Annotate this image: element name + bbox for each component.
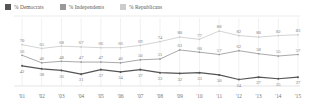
legend-item-democrats: % Democrats	[5, 4, 44, 10]
data-point-republicans	[100, 47, 102, 49]
data-point-republicans	[120, 47, 122, 49]
value-label-democrats: 32	[177, 77, 182, 82]
data-point-republicans	[41, 48, 43, 50]
x-tick-label: '06	[118, 93, 125, 99]
x-tick-label: '11	[216, 93, 222, 99]
data-point-democrats	[159, 72, 161, 74]
data-point-republicans	[61, 45, 63, 47]
data-point-independents	[61, 60, 63, 62]
value-label-republicans: 82	[237, 29, 242, 34]
legend-label-independents: % Independents	[69, 4, 104, 10]
data-point-democrats	[198, 72, 200, 74]
value-label-independents: 46	[39, 56, 44, 61]
data-point-democrats	[238, 78, 240, 80]
data-point-democrats	[258, 76, 260, 78]
value-label-democrats: 33	[197, 76, 202, 81]
x-tick-label: '15	[295, 93, 302, 99]
value-label-democrats: 24	[237, 83, 242, 88]
value-label-republicans: 68	[59, 40, 64, 45]
value-label-independents: 47	[99, 55, 104, 60]
value-label-independents: 50	[138, 53, 143, 58]
data-point-independents	[238, 50, 240, 52]
value-label-independents: 51	[158, 52, 163, 57]
data-point-independents	[179, 49, 181, 51]
x-tick-label: '12	[236, 93, 243, 99]
value-label-democrats: 27	[296, 80, 301, 85]
data-point-independents	[139, 59, 141, 61]
data-point-republicans	[297, 34, 299, 36]
value-label-independents: 57	[296, 48, 301, 53]
x-tick-label: '08	[157, 93, 164, 99]
x-tick-label: '10	[196, 93, 203, 99]
value-label-republicans: 70	[20, 38, 25, 43]
data-point-democrats	[179, 72, 181, 74]
value-label-independents: 48	[59, 55, 64, 60]
data-point-democrats	[41, 68, 43, 70]
legend-swatch-democrats-icon	[5, 4, 11, 10]
x-tick-label: '09	[177, 93, 184, 99]
value-label-independents: 63	[177, 43, 182, 48]
value-label-democrats: 25	[276, 82, 281, 87]
x-tick-label: '02	[39, 93, 46, 99]
data-point-republicans	[238, 35, 240, 37]
value-label-republicans: 67	[79, 40, 84, 45]
data-point-republicans	[80, 46, 82, 48]
chart-plot-area: 7065686766666974807788828082835646484747…	[0, 14, 312, 109]
data-point-independents	[218, 54, 220, 56]
data-point-democrats	[277, 78, 279, 80]
data-point-democrats	[218, 74, 220, 76]
data-point-republicans	[179, 36, 181, 38]
value-label-democrats: 37	[138, 73, 143, 78]
chart-value-labels: 7065686766666974807788828082835646484747…	[20, 24, 301, 87]
data-point-independents	[100, 61, 102, 63]
x-tick-label: '01	[19, 93, 26, 99]
data-point-republicans	[218, 30, 220, 32]
value-label-democrats: 30	[217, 78, 222, 83]
legend-item-republicans: % Republicans	[120, 4, 162, 10]
data-point-republicans	[21, 44, 23, 46]
value-label-democrats: 34	[118, 75, 123, 80]
legend-swatch-republicans-icon	[120, 4, 126, 10]
value-label-republicans: 66	[99, 41, 104, 46]
value-label-independents: 57	[217, 48, 222, 53]
legend-swatch-independents-icon	[60, 4, 66, 10]
x-tick-label: '03	[58, 93, 65, 99]
data-point-republicans	[277, 35, 279, 37]
value-label-republicans: 77	[197, 33, 202, 38]
value-label-democrats: 33	[158, 76, 163, 81]
x-tick-label: '13	[256, 93, 263, 99]
data-point-democrats	[21, 65, 23, 67]
data-point-independents	[159, 58, 161, 60]
value-label-independents: 60	[197, 46, 202, 51]
value-label-republicans: 80	[256, 30, 261, 35]
value-label-independents: 55	[276, 49, 281, 54]
value-label-republicans: 83	[296, 28, 301, 33]
value-label-democrats: 31	[79, 77, 84, 82]
value-label-democrats: 38	[39, 72, 44, 77]
value-label-republicans: 80	[177, 30, 182, 35]
data-point-democrats	[297, 76, 299, 78]
x-tick-label: '07	[137, 93, 144, 99]
value-label-democrats: 36	[59, 74, 64, 79]
legend-label-democrats: % Democrats	[14, 4, 44, 10]
data-point-republicans	[159, 41, 161, 43]
data-point-independents	[21, 54, 23, 56]
data-point-republicans	[199, 39, 201, 41]
value-label-democrats: 27	[256, 80, 261, 85]
data-point-republicans	[139, 45, 141, 47]
value-label-republicans: 65	[39, 42, 44, 47]
value-label-independents: 46	[118, 56, 123, 61]
x-tick-label: '14	[275, 93, 282, 99]
data-point-democrats	[100, 69, 102, 71]
data-point-democrats	[80, 73, 82, 75]
value-label-independents: 56	[20, 49, 25, 54]
data-point-independents	[297, 54, 299, 56]
data-point-independents	[80, 61, 82, 63]
data-point-independents	[258, 53, 260, 55]
value-label-republicans: 88	[217, 24, 222, 29]
data-point-independents	[199, 51, 201, 53]
data-point-independents	[120, 62, 122, 64]
value-label-democrats: 42	[20, 69, 25, 74]
data-point-republicans	[258, 36, 260, 38]
x-tick-label: '05	[98, 93, 105, 99]
